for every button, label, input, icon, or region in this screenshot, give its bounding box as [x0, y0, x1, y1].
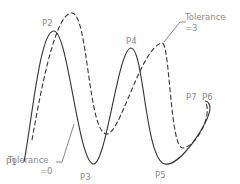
- point-label-p7: P7: [186, 92, 197, 102]
- solid-spline-curve: [24, 31, 210, 164]
- point-label-p2: P2: [42, 18, 53, 28]
- tolerance-0-label: Tolerance: [7, 155, 49, 165]
- point-label-p4: P4: [126, 36, 137, 46]
- point-label-p6: P6: [202, 92, 213, 102]
- tolerance-3-leader-line: [164, 22, 186, 42]
- dashed-spline-curve: [32, 13, 207, 148]
- spline-tolerance-diagram: P1 P2 P3 P4 P5 P6 P7 Tolerance =3 Tolera…: [0, 0, 240, 184]
- tolerance-0-leader-line: [56, 124, 74, 162]
- tolerance-3-label: Tolerance: [184, 12, 226, 22]
- tolerance-0-value: =0: [40, 166, 53, 176]
- point-label-p5: P5: [155, 170, 166, 180]
- point-label-p3: P3: [80, 172, 91, 182]
- tolerance-3-value: =3: [185, 23, 198, 33]
